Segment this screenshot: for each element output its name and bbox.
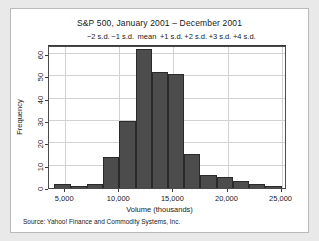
figure-panel: S&P 500, January 2001 – December 2001 −2… xyxy=(10,8,309,233)
gridline-vertical xyxy=(282,47,283,188)
sd-tick-label: +1 s.d. xyxy=(160,32,183,41)
x-tick xyxy=(118,189,119,192)
plot-panel xyxy=(48,46,286,189)
x-tick xyxy=(64,189,65,192)
gridline-horizontal xyxy=(49,53,285,54)
x-tick xyxy=(172,189,173,192)
histogram-bar xyxy=(87,184,103,188)
histogram-bar xyxy=(152,72,168,188)
x-tick-label: 5,000 xyxy=(55,194,74,203)
gridline-vertical xyxy=(65,47,66,188)
histogram-bar xyxy=(119,121,135,188)
histogram-bar xyxy=(200,175,216,188)
x-tick xyxy=(281,189,282,192)
y-tick xyxy=(45,144,48,145)
y-tick-label: 10 xyxy=(36,160,45,174)
histogram-bar xyxy=(265,186,281,188)
histogram-bar xyxy=(249,184,265,188)
sd-tick-label: −1 s.d. xyxy=(111,32,134,41)
x-tick-label: 10,000 xyxy=(107,194,130,203)
sd-tick-label: +3 s.d. xyxy=(209,32,232,41)
x-tick-label: 25,000 xyxy=(269,194,292,203)
sd-tick-label: −2 s.d. xyxy=(87,32,110,41)
y-tick xyxy=(45,167,48,168)
plot-area xyxy=(48,46,286,189)
y-tick-label: 60 xyxy=(36,48,45,62)
y-tick xyxy=(45,189,48,190)
histogram-bar xyxy=(54,184,70,188)
chart-title: S&P 500, January 2001 – December 2001 xyxy=(11,18,308,28)
x-tick xyxy=(227,189,228,192)
y-tick xyxy=(45,77,48,78)
histogram-bar xyxy=(217,177,233,188)
x-axis-label: Volume (thousands) xyxy=(11,205,308,214)
x-tick-label: 15,000 xyxy=(161,194,184,203)
histogram-bar xyxy=(168,74,184,188)
y-tick-label: 30 xyxy=(36,115,45,129)
y-tick-label: 20 xyxy=(36,137,45,151)
gridline-vertical xyxy=(228,47,229,188)
y-tick-label: 0 xyxy=(36,182,45,196)
y-tick xyxy=(45,122,48,123)
sd-tick-label: +4 s.d. xyxy=(233,32,256,41)
y-tick-label: 50 xyxy=(36,70,45,84)
sd-tick-label: +2 s.d. xyxy=(184,32,207,41)
histogram-bar xyxy=(103,157,119,188)
histogram-bar xyxy=(136,49,152,188)
x-tick-label: 20,000 xyxy=(215,194,238,203)
sd-tick-label: mean xyxy=(138,32,157,41)
y-tick xyxy=(45,100,48,101)
y-axis-label: Frequency xyxy=(15,99,24,134)
histogram-bar xyxy=(233,181,249,188)
histogram-bar xyxy=(71,186,87,188)
source-note: Source: Yahoo! Finance and Commodity Sys… xyxy=(23,218,180,225)
y-tick-label: 40 xyxy=(36,93,45,107)
y-tick xyxy=(45,55,48,56)
histogram-bar xyxy=(184,154,200,188)
